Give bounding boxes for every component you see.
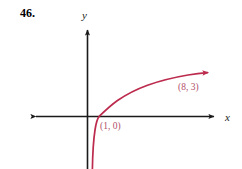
x-axis-label: x: [225, 112, 230, 123]
y-axis-label: y: [82, 10, 87, 21]
coordinate-plot: [0, 0, 242, 169]
figure-container: 46. y x (1, 0) (8, 3): [0, 0, 242, 169]
point-label-eight-three: (8, 3): [178, 83, 199, 93]
point-label-one-zero: (1, 0): [100, 122, 121, 132]
